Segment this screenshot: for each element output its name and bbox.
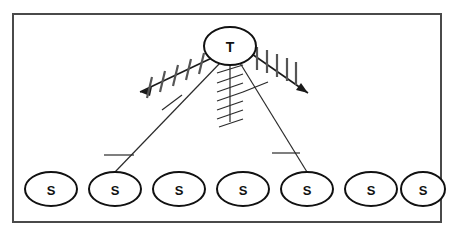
node-S7-label: S bbox=[419, 183, 428, 198]
node-S6-label: S bbox=[367, 183, 376, 198]
node-S5-label: S bbox=[303, 183, 312, 198]
node-T-label: T bbox=[226, 39, 235, 55]
node-T[interactable]: T bbox=[204, 27, 256, 65]
node-S2-label: S bbox=[111, 183, 120, 198]
node-S2[interactable]: S bbox=[89, 172, 141, 206]
diagram-canvas: T S S S S S S S bbox=[0, 0, 455, 235]
node-S3[interactable]: S bbox=[153, 172, 205, 206]
node-S5[interactable]: S bbox=[281, 172, 333, 206]
network-diagram: T S S S S S S S bbox=[0, 0, 455, 235]
node-S7[interactable]: S bbox=[401, 172, 445, 206]
node-S3-label: S bbox=[175, 183, 184, 198]
node-S1-label: S bbox=[47, 183, 56, 198]
node-S4[interactable]: S bbox=[217, 172, 269, 206]
node-S1[interactable]: S bbox=[25, 172, 77, 206]
node-S4-label: S bbox=[239, 183, 248, 198]
node-S6[interactable]: S bbox=[345, 172, 397, 206]
